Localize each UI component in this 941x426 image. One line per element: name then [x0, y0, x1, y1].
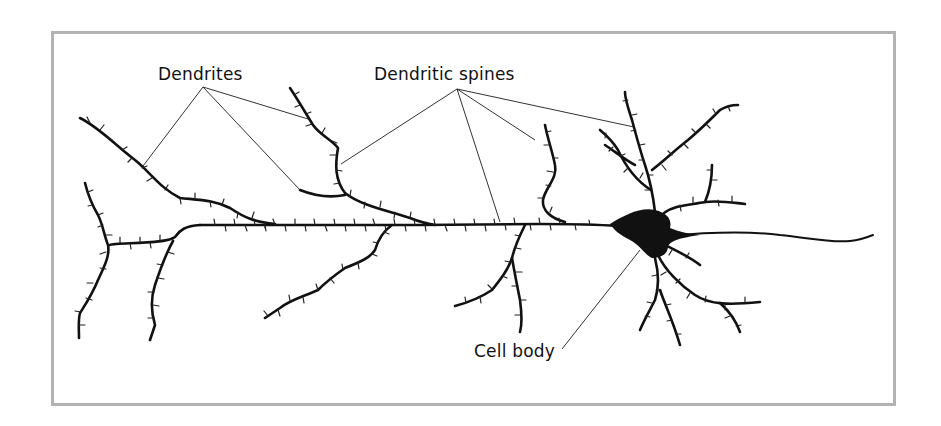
- cell-body-group: [600, 92, 873, 345]
- upper-middle-side: [300, 190, 345, 196]
- axon: [668, 232, 873, 241]
- soma-dendrite-down-right-short: [665, 245, 700, 265]
- upper-middle-dendrite: [290, 88, 435, 225]
- second-left-dendrite: [150, 241, 173, 340]
- leader-lines: [143, 87, 640, 349]
- upper-left-dendrite: [80, 118, 275, 224]
- neuron-diagram: Dendrites Dendritic spines Cell body: [0, 0, 941, 426]
- soma-dendrite-up-left-sub: [605, 145, 635, 165]
- lower-middle-dendrite-b: [512, 258, 522, 332]
- soma-dendrite-up-right: [652, 105, 738, 170]
- soma-dendrite-down-right: [658, 255, 760, 304]
- leader-spines-2: [457, 89, 500, 222]
- upper-curly-dendrite: [543, 125, 565, 222]
- label-dendritic-spines: Dendritic spines: [374, 64, 515, 84]
- label-dendrites: Dendrites: [158, 64, 243, 84]
- leader-dendrites-1: [143, 87, 203, 166]
- soma-dendrite-down-right-sub: [720, 303, 740, 332]
- left-branch-horizontal: [110, 225, 200, 245]
- main-dendrite: [200, 224, 618, 226]
- leader-dendrites-3: [203, 87, 300, 190]
- lower-long-dendrite: [265, 225, 392, 318]
- spines-lower-middle: [465, 235, 526, 315]
- leftmost-dendrite: [79, 183, 109, 338]
- leader-spines-4: [457, 89, 634, 127]
- dendrite-branches: [79, 88, 618, 340]
- soma-dendrite-down: [640, 258, 658, 330]
- spines-lower-long: [264, 232, 389, 316]
- soma-dendrite-down-sub: [660, 290, 680, 345]
- soma-dendrite-up: [625, 92, 655, 212]
- leader-cell-body: [562, 250, 640, 349]
- leader-spines-1: [341, 89, 457, 164]
- label-cell-body: Cell body: [474, 341, 555, 361]
- spines-upper-left: [87, 117, 265, 228]
- leader-spines-3: [457, 89, 535, 140]
